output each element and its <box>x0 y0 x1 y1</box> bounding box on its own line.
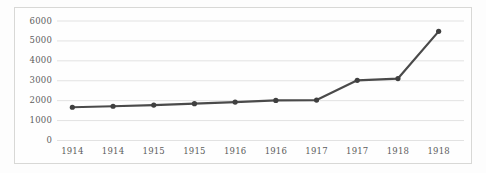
x-axis-tick-label: 1915 <box>134 146 174 156</box>
data-point-marker <box>355 78 360 83</box>
data-point-marker <box>314 97 319 102</box>
data-point-marker <box>192 101 197 106</box>
data-point-marker <box>233 99 238 104</box>
y-axis-tick-label: 4000 <box>18 55 52 65</box>
x-axis-tick-label: 1916 <box>215 146 255 156</box>
x-axis-tick-label: 1914 <box>52 146 92 156</box>
x-axis-tick-label: 1916 <box>256 146 296 156</box>
y-axis-tick-label: 0 <box>18 135 52 145</box>
x-axis-tick-label: 1915 <box>174 146 214 156</box>
x-axis-tick-label: 1918 <box>419 146 459 156</box>
y-axis-tick-label: 1000 <box>18 115 52 125</box>
data-point-marker <box>395 76 400 81</box>
x-axis-tick-label: 1918 <box>378 146 418 156</box>
data-series-line <box>72 31 438 107</box>
y-axis-tick-label: 2000 <box>18 95 52 105</box>
data-point-marker <box>151 102 156 107</box>
y-axis-tick-label: 5000 <box>18 35 52 45</box>
line-chart-figure: 0100020003000400050006000 19141914191519… <box>0 0 486 173</box>
x-axis-tick-label: 1914 <box>93 146 133 156</box>
y-axis-tick-label: 3000 <box>18 75 52 85</box>
data-point-marker <box>273 98 278 103</box>
data-point-marker <box>70 105 75 110</box>
x-axis-tick-label: 1917 <box>297 146 337 156</box>
data-point-marker <box>436 29 441 34</box>
data-point-marker <box>110 104 115 109</box>
gridlines-group <box>57 21 464 141</box>
y-axis-tick-label: 6000 <box>18 16 52 26</box>
x-axis-tick-label: 1917 <box>337 146 377 156</box>
